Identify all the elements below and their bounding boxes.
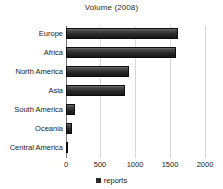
y-axis-label-south-america: South America — [14, 105, 63, 115]
legend-label-reports: reports — [104, 176, 127, 185]
bar-africa — [66, 47, 176, 58]
y-axis-label-africa: Africa — [44, 48, 63, 58]
legend-swatch-reports-icon — [96, 178, 101, 183]
bar-central-america — [66, 142, 68, 153]
bar-south-america — [66, 104, 75, 115]
table-row — [66, 28, 206, 39]
x-tick-500: 500 — [94, 160, 107, 169]
table-row — [66, 66, 206, 77]
chart-title: Volume (2008) — [0, 3, 223, 12]
y-axis-label-central-america: Central America — [10, 143, 63, 153]
bar-north-america — [66, 66, 129, 77]
y-axis-label-oceania: Oceania — [35, 124, 63, 134]
x-axis-tick-labels: 0 500 1000 1500 2000 — [0, 160, 223, 172]
bar-oceania — [66, 123, 72, 134]
bar-asia — [66, 85, 125, 96]
plot-area — [66, 26, 206, 158]
table-row — [66, 104, 206, 115]
bar-europe — [66, 28, 178, 39]
bar-chart: Volume (2008) Europe Africa North Americ… — [0, 0, 223, 189]
table-row — [66, 85, 206, 96]
x-tick-0: 0 — [64, 160, 68, 169]
y-axis-label-north-america: North America — [15, 67, 63, 77]
x-tick-1000: 1000 — [127, 160, 144, 169]
y-axis-label-europe: Europe — [39, 29, 63, 39]
y-axis-category-labels: Europe Africa North America Asia South A… — [0, 26, 63, 158]
bar-rows — [66, 26, 206, 158]
x-tick-2000: 2000 — [197, 160, 214, 169]
table-row — [66, 142, 206, 153]
table-row — [66, 123, 206, 134]
x-tick-1500: 1500 — [162, 160, 179, 169]
y-axis-label-asia: Asia — [48, 86, 63, 96]
legend: reports — [0, 176, 223, 185]
table-row — [66, 47, 206, 58]
